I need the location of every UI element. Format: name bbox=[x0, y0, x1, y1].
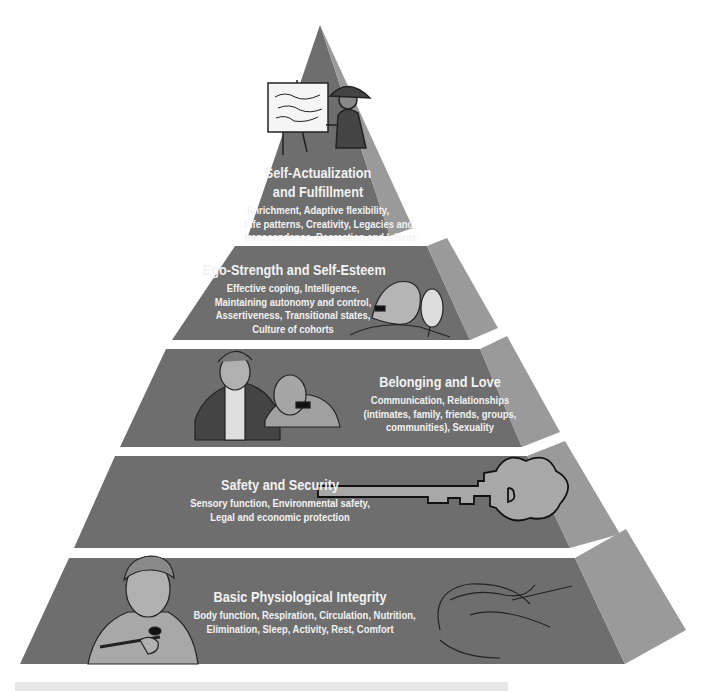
tier-description: Sensory function, Environmental safety, … bbox=[190, 497, 370, 524]
bottom-band bbox=[15, 682, 508, 691]
tier-label-belonging: Belonging and Love Communication, Relati… bbox=[358, 372, 522, 435]
tier-title: Self-Actualization and Fulfillment bbox=[244, 163, 392, 201]
tier-description-line: communities), Sexuality bbox=[358, 421, 522, 435]
tier-description-line: Effective coping, Intelligence, bbox=[203, 282, 383, 296]
tier-title: Basic Physiological Integrity bbox=[193, 587, 406, 606]
tier-title: Safety and Security bbox=[190, 475, 370, 494]
tier-description-line: Enrichment, Adaptive flexibility, bbox=[244, 204, 392, 218]
tier-description-line: Assertiveness, Transitional states, bbox=[203, 309, 383, 323]
tier-description-line: Legal and economic protection bbox=[190, 511, 370, 525]
tier-label-ego-strength: Ego-Strength and Self-Esteem Effective c… bbox=[203, 260, 383, 336]
tier-description-line: (intimates, family, friends, groups, bbox=[358, 408, 522, 422]
tier-description-line: Maintaining autonomy and control, bbox=[203, 296, 383, 310]
tier-description-line: transcendence, Recreation and leisure bbox=[244, 231, 392, 245]
tier-description-line: Culture of cohorts bbox=[203, 323, 383, 337]
tier-title: Belonging and Love bbox=[358, 372, 522, 391]
tier-description-line: Elimination, Sleep, Activity, Rest, Comf… bbox=[193, 623, 406, 637]
tier-description: Effective coping, Intelligence, Maintain… bbox=[203, 282, 383, 336]
tier-title-line: and Fulfillment bbox=[244, 182, 392, 201]
tier-description-line: Body function, Respiration, Circulation,… bbox=[193, 609, 406, 623]
tier-description: Communication, Relationships (intimates,… bbox=[358, 394, 522, 435]
tier-label-safety: Safety and Security Sensory function, En… bbox=[190, 475, 370, 524]
tier-description-line: Sensory function, Environmental safety, bbox=[190, 497, 370, 511]
tier-description: Enrichment, Adaptive flexibility, Life p… bbox=[244, 204, 392, 245]
tier-label-physiological: Basic Physiological Integrity Body funct… bbox=[193, 587, 406, 636]
tier-label-self-actualization: Self-Actualization and Fulfillment Enric… bbox=[244, 163, 392, 245]
tier-title: Ego-Strength and Self-Esteem bbox=[203, 260, 383, 279]
tier-description: Body function, Respiration, Circulation,… bbox=[193, 609, 406, 636]
tier-description-line: Life patterns, Creativity, Legacies and bbox=[244, 218, 392, 232]
tier-title-line: Self-Actualization bbox=[244, 163, 392, 182]
tier-description-line: Communication, Relationships bbox=[358, 394, 522, 408]
